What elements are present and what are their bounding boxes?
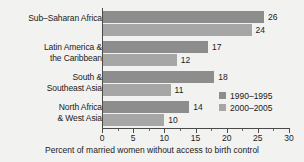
category-label-south-southeast-asia: South & Southeast Asia: [47, 72, 102, 93]
x-tick-label-5: 5: [131, 133, 136, 143]
x-tick-label-0: 0: [100, 133, 105, 143]
x-minor-tick: [118, 129, 119, 131]
x-axis-title: Percent of married women without access …: [0, 145, 304, 155]
value-label-north-africa-west-asia-1990-1995: 14: [193, 101, 202, 113]
value-label-north-africa-west-asia-2000-2005: 10: [168, 114, 177, 126]
x-minor-tick: [149, 129, 150, 131]
value-label-south-southeast-asia-2000-2005: 11: [175, 84, 184, 96]
legend-label-1990-1995: 1990–1995: [230, 91, 273, 101]
bar-south-southeast-asia-2000-2005: [102, 84, 171, 96]
value-label-sub-saharan-africa-2000-2005: 24: [256, 24, 265, 36]
bar-south-southeast-asia-1990-1995: [102, 71, 214, 83]
x-tick-label-15: 15: [191, 133, 200, 143]
y-axis-line: [102, 8, 103, 129]
x-tick-label-30: 30: [284, 133, 293, 143]
x-minor-tick: [242, 129, 243, 131]
legend-swatch-icon-2000-2005: [219, 104, 226, 111]
legend-item-2000-2005: 2000–2005: [219, 102, 273, 113]
legend-label-2000-2005: 2000–2005: [230, 103, 273, 113]
bar-sub-saharan-africa-2000-2005: [102, 24, 252, 36]
x-minor-tick: [180, 129, 181, 131]
category-label-north-africa-west-asia: North Africa & West Asia: [57, 102, 102, 123]
bar-north-africa-west-asia-2000-2005: [102, 114, 164, 126]
category-label-latin-america-caribbean: Latin America & the Caribbean: [44, 42, 102, 63]
legend-swatch-icon-1990-1995: [219, 92, 226, 99]
x-minor-tick: [211, 129, 212, 131]
bar-latin-america-caribbean-2000-2005: [102, 54, 177, 66]
category-label-sub-saharan-africa: Sub–Saharan Africa: [28, 13, 102, 24]
value-label-latin-america-caribbean-2000-2005: 12: [181, 54, 190, 66]
x-minor-tick: [273, 129, 274, 131]
x-tick-label-25: 25: [253, 133, 262, 143]
legend-item-1990-1995: 1990–1995: [219, 90, 273, 101]
bar-sub-saharan-africa-1990-1995: [102, 11, 264, 23]
value-label-sub-saharan-africa-1990-1995: 26: [268, 11, 277, 23]
bar-latin-america-caribbean-1990-1995: [102, 41, 208, 53]
value-label-latin-america-caribbean-1990-1995: 17: [212, 41, 221, 53]
legend: 1990–1995 2000–2005: [219, 90, 273, 114]
bar-chart: Sub–Saharan Africa Latin America & the C…: [0, 0, 304, 162]
x-tick-label-20: 20: [222, 133, 231, 143]
x-tick-label-10: 10: [160, 133, 169, 143]
bar-north-africa-west-asia-1990-1995: [102, 101, 189, 113]
value-label-south-southeast-asia-1990-1995: 18: [218, 71, 227, 83]
